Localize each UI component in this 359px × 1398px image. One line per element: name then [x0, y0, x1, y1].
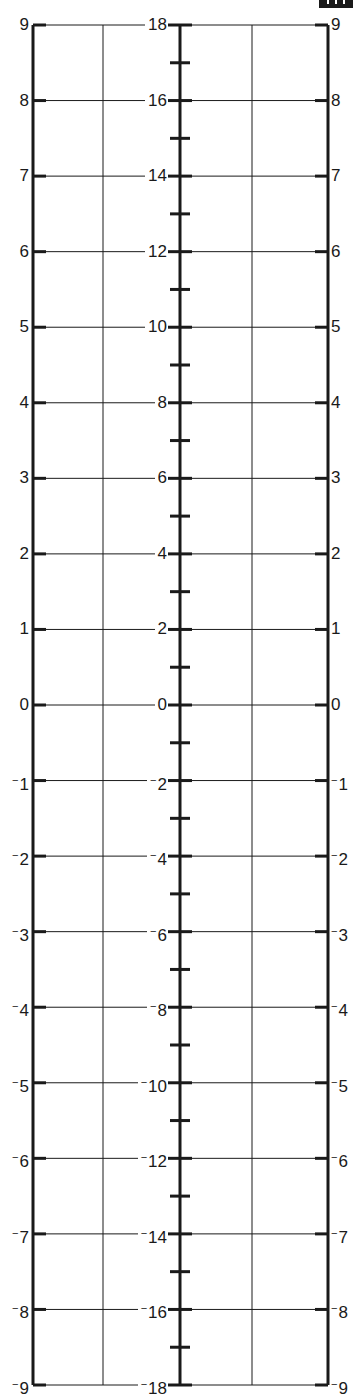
left-scale-label: −4	[12, 998, 29, 1019]
left-scale-label: 5	[20, 318, 29, 335]
middle-scale-label: −2	[147, 772, 167, 793]
right-scale-label: −3	[331, 923, 348, 944]
left-scale-label: 9	[20, 16, 29, 33]
right-scale-label: −4	[331, 998, 348, 1019]
right-scale-label: 5	[331, 318, 340, 335]
right-scale-label: −1	[331, 772, 348, 793]
right-scale-label: −6	[331, 1149, 348, 1170]
right-scale-label: 3	[331, 469, 340, 486]
left-scale-label: 2	[20, 545, 29, 562]
middle-scale-label: 2	[155, 620, 167, 637]
middle-scale-label: −4	[147, 847, 167, 868]
middle-scale-label: −10	[138, 1074, 167, 1095]
middle-scale-label: 10	[145, 318, 167, 335]
left-scale-label: −6	[12, 1149, 29, 1170]
right-scale-label: 7	[331, 167, 340, 184]
right-scale-label: 6	[331, 243, 340, 260]
right-scale-label: −8	[331, 1300, 348, 1321]
left-scale-label: 0	[20, 696, 29, 713]
right-scale-label: 0	[331, 696, 340, 713]
middle-scale-label: 12	[145, 243, 167, 260]
middle-scale-label: −12	[138, 1149, 167, 1170]
left-scale-label: −7	[12, 1225, 29, 1246]
middle-scale-label: −14	[138, 1225, 167, 1246]
left-scale-label: 3	[20, 469, 29, 486]
middle-scale-label: −6	[147, 923, 167, 944]
middle-scale-label: 0	[155, 696, 167, 713]
right-scale-label: 2	[331, 545, 340, 562]
middle-scale-label: 14	[145, 167, 167, 184]
right-scale-label: −2	[331, 847, 348, 868]
right-scale-label: 8	[331, 92, 340, 109]
middle-scale-label: 6	[155, 469, 167, 486]
left-scale-label: 7	[20, 167, 29, 184]
right-scale-label: −9	[331, 1376, 348, 1397]
left-scale-label: 1	[20, 620, 29, 637]
right-scale-label: 4	[331, 394, 340, 411]
left-scale-label: −2	[12, 847, 29, 868]
right-scale-label: 1	[331, 620, 340, 637]
left-scale-label: −5	[12, 1074, 29, 1095]
left-scale-label: −1	[12, 772, 29, 793]
right-scale-label: −5	[331, 1074, 348, 1095]
middle-scale-label: 8	[155, 394, 167, 411]
middle-scale-label: 4	[155, 545, 167, 562]
middle-scale-label: −18	[138, 1376, 167, 1397]
left-scale-label: −9	[12, 1376, 29, 1397]
left-scale-label: −3	[12, 923, 29, 944]
middle-scale-label: −8	[147, 998, 167, 1019]
right-scale-label: 9	[331, 16, 340, 33]
right-scale-label: −7	[331, 1225, 348, 1246]
left-scale-label: 4	[20, 394, 29, 411]
corner-marker	[319, 0, 353, 8]
left-scale-label: −8	[12, 1300, 29, 1321]
middle-scale-label: 16	[145, 92, 167, 109]
left-scale-label: 8	[20, 92, 29, 109]
left-scale-label: 6	[20, 243, 29, 260]
middle-scale-label: 18	[145, 16, 167, 33]
middle-scale-label: −16	[138, 1300, 167, 1321]
